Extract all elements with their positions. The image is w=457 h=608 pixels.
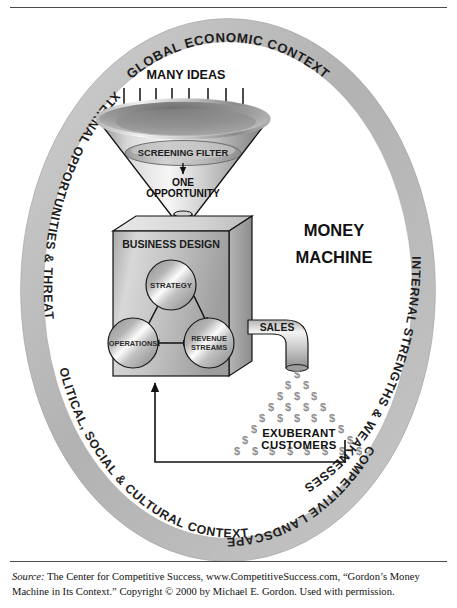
exuberant-customers-label-line2: CUSTOMERS (261, 439, 336, 451)
business-design-box: BUSINESS DESIGN STRATEGY OPERATIONS REVE… (108, 216, 252, 376)
node-operations: OPERATIONS (108, 318, 158, 368)
exuberant-customers-label-line1: EXUBERANT (262, 427, 336, 439)
money-machine-title: MONEY MACHINE (296, 221, 373, 266)
svg-text:$: $ (242, 434, 248, 446)
node-revenue-streams-label-line1: REVENUE (191, 334, 227, 343)
money-machine-title-line2: MACHINE (296, 248, 373, 266)
svg-text:$: $ (311, 412, 317, 424)
svg-text:$: $ (294, 390, 300, 402)
svg-text:$: $ (285, 379, 291, 391)
exuberant-customers-money-cone: $ $$ $$$ $$$$ $$$$$ $$ $$ $$$$$$$$ EXUBE… (234, 368, 362, 457)
node-strategy-label: STRATEGY (150, 281, 193, 290)
sales-pipe-label: SALES (260, 322, 295, 333)
svg-text:$: $ (259, 412, 265, 424)
svg-text:$: $ (303, 401, 309, 413)
svg-text:$: $ (329, 412, 335, 424)
money-machine-diagram: GLOBAL ECONOMIC CONTEXT INTERNAL STRENGT… (0, 0, 457, 608)
svg-text:$: $ (251, 423, 257, 435)
svg-text:$: $ (338, 423, 344, 435)
svg-text:$: $ (277, 412, 283, 424)
svg-text:$: $ (294, 412, 300, 424)
svg-text:$: $ (356, 445, 362, 457)
sales-pipe: SALES (248, 320, 308, 371)
svg-text:$: $ (277, 390, 283, 402)
one-opportunity-label-line2: OPPORTUNITY (146, 188, 220, 199)
bottom-divider-rule (10, 561, 447, 562)
source-label: Source: (12, 571, 45, 582)
svg-text:$: $ (285, 401, 291, 413)
node-revenue-streams: REVENUE STREAMS (184, 318, 234, 368)
svg-text:$: $ (268, 401, 274, 413)
source-text: The Center for Competitive Success, www.… (12, 571, 420, 597)
svg-text:$: $ (339, 445, 345, 457)
svg-text:$: $ (347, 434, 353, 446)
svg-text:$: $ (252, 445, 258, 457)
svg-text:$: $ (311, 390, 317, 402)
screening-funnel: SCREENING FILTER ONE OPPORTUNITY (97, 100, 269, 235)
node-revenue-streams-label-line2: STREAMS (191, 343, 227, 352)
svg-text:$: $ (294, 368, 300, 380)
svg-text:$: $ (320, 401, 326, 413)
business-design-label: BUSINESS DESIGN (122, 238, 220, 250)
node-strategy: STRATEGY (146, 260, 196, 310)
many-ideas-label: MANY IDEAS (147, 68, 226, 82)
one-opportunity-label-line1: ONE (172, 177, 194, 188)
node-operations-label: OPERATIONS (109, 339, 157, 348)
svg-text:$: $ (303, 379, 309, 391)
figure-source-caption: Source: The Center for Competitive Succe… (12, 570, 445, 599)
money-machine-title-line1: MONEY (304, 221, 365, 239)
svg-text:$: $ (234, 445, 240, 457)
screening-filter-label: SCREENING FILTER (138, 147, 229, 158)
